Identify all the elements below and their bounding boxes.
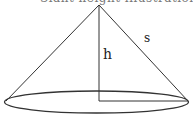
- left-slant-edge: [6, 5, 99, 101]
- height-label: h: [103, 46, 112, 62]
- right-slant-edge: [99, 5, 188, 101]
- cone-diagram: h s: [0, 0, 193, 118]
- slant-label: s: [144, 31, 150, 45]
- base-ellipse: [5, 91, 189, 113]
